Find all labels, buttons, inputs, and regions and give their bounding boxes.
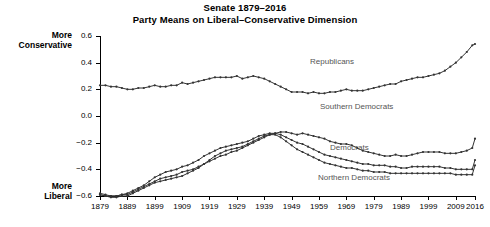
series-southern-democrats — [99, 131, 476, 197]
x-tick — [401, 196, 402, 200]
series-lines — [100, 36, 475, 196]
chart-title-block: Senate 1879–2016 Party Means on Liberal–… — [0, 2, 490, 26]
y-tick-label: 0.0 — [66, 112, 92, 120]
x-tick — [319, 196, 320, 200]
x-tick — [100, 196, 101, 200]
chart-subtitle: Party Means on Liberal–Conservative Dime… — [0, 14, 490, 26]
x-tick — [374, 196, 375, 200]
series-republicans — [99, 43, 476, 95]
y-tick-label: 0.4 — [66, 59, 92, 67]
x-tick — [155, 196, 156, 200]
x-tick — [292, 196, 293, 200]
x-tick — [475, 196, 476, 200]
y-tick-label: 0.2 — [66, 85, 92, 93]
x-tick — [209, 196, 210, 200]
x-tick — [346, 196, 347, 200]
series-label-southern-democrats: Southern Democrats — [320, 102, 393, 111]
x-tick — [182, 196, 183, 200]
y-tick-label: 0.6 — [66, 32, 92, 40]
x-tick — [237, 196, 238, 200]
x-tick — [264, 196, 265, 200]
x-axis-line — [100, 196, 476, 197]
series-northern-democrats — [99, 134, 476, 199]
series-label-democrats: Democrats — [330, 143, 369, 152]
x-tick — [428, 196, 429, 200]
chart-container: Senate 1879–2016 Party Means on Liberal–… — [0, 0, 490, 227]
series-label-republicans: Republicans — [310, 57, 354, 66]
series-label-northern-democrats: Northern Democrats — [318, 173, 390, 182]
y-tick-label: −0.4 — [66, 165, 92, 173]
x-tick — [456, 196, 457, 200]
page-title: Senate 1879–2016 — [0, 2, 490, 14]
y-tick-label: −0.2 — [66, 139, 92, 147]
plot-area — [100, 36, 475, 196]
axis-note-conservative: More Conservative — [0, 31, 72, 50]
x-tick-label: 2016 — [455, 202, 490, 211]
axis-note-liberal: More Liberal — [0, 182, 72, 201]
y-tick-label: −0.6 — [66, 192, 92, 200]
axis-note-conservative-line2: Conservative — [0, 41, 72, 51]
axis-note-liberal-line2: Liberal — [0, 192, 72, 202]
